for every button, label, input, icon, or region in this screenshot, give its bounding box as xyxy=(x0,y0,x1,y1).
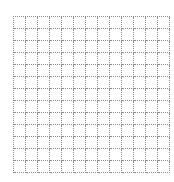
grid-cell xyxy=(98,77,110,89)
grid-cell xyxy=(98,17,110,29)
grid-cell xyxy=(98,137,110,149)
grid-cell xyxy=(14,149,26,161)
grid-cell xyxy=(110,125,122,137)
grid-cell xyxy=(62,161,74,173)
grid-cell xyxy=(122,161,134,173)
grid-cell xyxy=(158,41,170,53)
grid-cell xyxy=(98,113,110,125)
grid-cell xyxy=(14,29,26,41)
grid-cell xyxy=(98,53,110,65)
grid-cell xyxy=(134,161,146,173)
grid-cell xyxy=(14,65,26,77)
grid-cell xyxy=(86,89,98,101)
grid-cell xyxy=(122,125,134,137)
grid-cell xyxy=(62,113,74,125)
grid-cell xyxy=(62,77,74,89)
grid-cell xyxy=(74,137,86,149)
grid-cell xyxy=(134,89,146,101)
grid-cell xyxy=(134,125,146,137)
grid-cell xyxy=(122,137,134,149)
grid-cell xyxy=(62,89,74,101)
grid-cell xyxy=(158,77,170,89)
grid-cell xyxy=(14,161,26,173)
grid-cell xyxy=(38,29,50,41)
grid-cell xyxy=(86,101,98,113)
grid-cell xyxy=(98,161,110,173)
grid-cell xyxy=(26,149,38,161)
grid-cell xyxy=(14,125,26,137)
grid-cell xyxy=(98,65,110,77)
grid-cell xyxy=(134,29,146,41)
grid-cell xyxy=(14,137,26,149)
grid-cell xyxy=(122,29,134,41)
grid-cell xyxy=(38,137,50,149)
grid-cell xyxy=(50,113,62,125)
grid-cell xyxy=(38,41,50,53)
grid-cell xyxy=(134,113,146,125)
grid-cell xyxy=(50,149,62,161)
grid-cell xyxy=(38,53,50,65)
grid-cell xyxy=(74,41,86,53)
grid-cell xyxy=(122,65,134,77)
grid-cell xyxy=(122,113,134,125)
grid-cell xyxy=(50,29,62,41)
grid-cell xyxy=(158,101,170,113)
grid-cell xyxy=(14,17,26,29)
grid-cell xyxy=(86,149,98,161)
grid-cell xyxy=(134,137,146,149)
grid-cell xyxy=(74,17,86,29)
grid-cell xyxy=(62,149,74,161)
grid-cell xyxy=(62,17,74,29)
grid-cell xyxy=(110,41,122,53)
grid-cell xyxy=(158,65,170,77)
grid-cell xyxy=(26,125,38,137)
grid-cell xyxy=(86,17,98,29)
grid-cell xyxy=(134,77,146,89)
grid-cell xyxy=(122,17,134,29)
grid-cell xyxy=(62,41,74,53)
grid-cell xyxy=(158,137,170,149)
grid-cell xyxy=(146,53,158,65)
grid-cell xyxy=(110,101,122,113)
grid-cell xyxy=(158,29,170,41)
grid-cell xyxy=(38,77,50,89)
grid-cell xyxy=(134,149,146,161)
grid-cell xyxy=(14,101,26,113)
grid-cell xyxy=(134,65,146,77)
grid-cell xyxy=(38,113,50,125)
grid-cell xyxy=(110,89,122,101)
grid-cell xyxy=(122,77,134,89)
grid-cell xyxy=(14,53,26,65)
grid-cell xyxy=(158,113,170,125)
grid-cell xyxy=(50,17,62,29)
grid-cell xyxy=(146,125,158,137)
grid-cell xyxy=(134,101,146,113)
grid-cell xyxy=(50,137,62,149)
grid-cell xyxy=(26,41,38,53)
grid-cell xyxy=(26,77,38,89)
grid-cell xyxy=(86,113,98,125)
grid-cell xyxy=(14,113,26,125)
grid-cell xyxy=(122,101,134,113)
grid-cell xyxy=(158,161,170,173)
grid-cell xyxy=(74,53,86,65)
grid-cell xyxy=(50,89,62,101)
grid-cell xyxy=(38,89,50,101)
grid-cell xyxy=(26,65,38,77)
grid-cell xyxy=(146,161,158,173)
grid-cell xyxy=(134,53,146,65)
grid-cell xyxy=(86,161,98,173)
grid-cell xyxy=(62,29,74,41)
grid-cell xyxy=(146,65,158,77)
grid-cell xyxy=(74,101,86,113)
grid-cell xyxy=(62,65,74,77)
grid-cell xyxy=(62,53,74,65)
grid-cell xyxy=(146,113,158,125)
grid-cell xyxy=(26,89,38,101)
grid-cell xyxy=(98,29,110,41)
grid-cell xyxy=(38,149,50,161)
grid-cell xyxy=(74,89,86,101)
grid-cell xyxy=(146,41,158,53)
grid-cell xyxy=(74,113,86,125)
grid-cell xyxy=(98,101,110,113)
